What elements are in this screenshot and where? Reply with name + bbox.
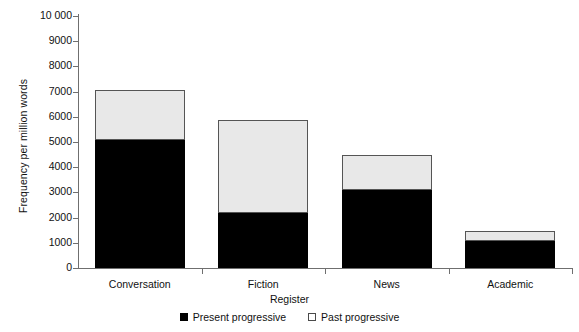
bar-conversation — [95, 90, 185, 268]
y-tick-mark — [73, 192, 78, 193]
legend-item-past-progressive: Past progressive — [308, 311, 399, 323]
x-tick-mark — [202, 269, 203, 274]
y-axis-line — [78, 14, 79, 269]
y-tick-label: 9000 — [10, 35, 72, 46]
y-tick-label: 7000 — [10, 86, 72, 97]
bar-segment-present-progressive — [465, 241, 555, 268]
y-tick-mark — [73, 243, 78, 244]
y-tick-mark — [73, 117, 78, 118]
legend-swatch-open-square-icon — [308, 313, 316, 321]
y-tick-label: 5000 — [10, 136, 72, 147]
bar-fiction — [218, 120, 308, 268]
x-axis-title: Register — [0, 293, 579, 305]
bar-segment-past-progressive — [342, 155, 432, 190]
y-tick-label: 4000 — [10, 161, 72, 172]
x-tick-mark — [325, 269, 326, 274]
bar-segment-past-progressive — [95, 90, 185, 140]
x-tick-label-news: News — [327, 278, 447, 290]
x-tick-label-fiction: Fiction — [203, 278, 323, 290]
y-tick-label: 0 — [10, 262, 72, 273]
bar-segment-past-progressive — [218, 120, 308, 213]
legend-label-present-progressive: Present progressive — [193, 311, 286, 323]
bar-segment-present-progressive — [218, 213, 308, 268]
chart-legend: Present progressive Past progressive — [0, 311, 579, 323]
bar-academic — [465, 231, 555, 268]
stacked-bar-chart: Frequency per million words 010002000300… — [0, 0, 579, 332]
y-tick-mark — [73, 218, 78, 219]
y-tick-mark — [73, 167, 78, 168]
legend-item-present-progressive: Present progressive — [180, 311, 286, 323]
y-tick-mark — [73, 41, 78, 42]
bar-segment-past-progressive — [465, 231, 555, 241]
x-tick-mark — [572, 269, 573, 274]
y-tick-mark — [73, 66, 78, 67]
y-tick-label: 2000 — [10, 212, 72, 223]
y-tick-label: 1000 — [10, 237, 72, 248]
bar-segment-present-progressive — [342, 190, 432, 268]
legend-swatch-filled-square-icon — [180, 313, 188, 321]
y-tick-label: 3000 — [10, 186, 72, 197]
bar-segment-present-progressive — [95, 140, 185, 268]
legend-label-past-progressive: Past progressive — [321, 311, 399, 323]
y-tick-mark — [73, 92, 78, 93]
x-tick-mark — [449, 269, 450, 274]
y-tick-label: 6000 — [10, 111, 72, 122]
x-tick-label-academic: Academic — [450, 278, 570, 290]
y-tick-label: 8000 — [10, 60, 72, 71]
x-tick-label-conversation: Conversation — [80, 278, 200, 290]
y-tick-mark — [73, 268, 78, 269]
y-tick-mark — [73, 142, 78, 143]
y-tick-mark — [73, 16, 78, 17]
y-tick-label: 10 000 — [10, 10, 72, 21]
bar-news — [342, 155, 432, 268]
